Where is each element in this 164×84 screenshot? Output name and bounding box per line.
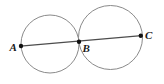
- point-marker-a: [19, 44, 23, 48]
- point-label-a: A: [9, 41, 17, 53]
- point-label-c: C: [145, 29, 153, 41]
- figure-canvas: A B C: [0, 0, 164, 84]
- point-marker-c: [139, 34, 143, 38]
- geometry-figure: A B C: [0, 0, 164, 84]
- point-marker-b: [77, 40, 81, 44]
- point-label-b: B: [82, 42, 90, 54]
